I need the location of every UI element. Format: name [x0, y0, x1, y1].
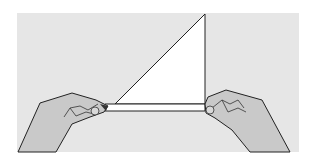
paper-fold-strip — [105, 104, 205, 111]
right-hand — [205, 90, 290, 152]
folding-illustration — [0, 0, 309, 164]
paper-triangle — [115, 14, 205, 104]
left-hand — [18, 93, 108, 152]
